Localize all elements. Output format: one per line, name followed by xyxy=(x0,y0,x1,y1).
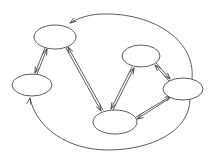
node-upper-right[interactable] xyxy=(122,45,160,67)
edge-n5-to-n2-outer-bottom-arrowhead-icon xyxy=(27,98,31,104)
edge-n3-to-n1-line xyxy=(68,47,103,110)
edge-n5-to-n4 xyxy=(155,65,169,81)
edge-n2-to-n1-line xyxy=(37,49,47,74)
node-top-left[interactable] xyxy=(34,25,76,49)
edge-n5-to-n3 xyxy=(137,98,170,119)
node-left[interactable] xyxy=(12,74,52,96)
edge-n5-to-n4-line xyxy=(155,65,169,81)
edge-n3-to-n4 xyxy=(113,68,134,110)
edge-n3-to-n1-arrowhead-icon xyxy=(68,47,73,53)
node-right[interactable] xyxy=(163,78,203,100)
edge-n3-to-n4-line xyxy=(113,68,134,110)
edge-n4-to-n5-line xyxy=(156,63,170,79)
node-bottom-center[interactable] xyxy=(93,110,137,134)
edge-n4-to-n3-line xyxy=(111,67,132,109)
edge-n3-to-n5 xyxy=(136,96,171,117)
edge-n1-to-n3-line xyxy=(66,48,101,111)
nodes-layer xyxy=(12,25,203,134)
edge-n1-to-n2-line xyxy=(35,48,45,73)
edge-n1-to-n3 xyxy=(66,48,101,111)
edge-n3-to-n1 xyxy=(68,47,103,110)
edge-n1-to-n2 xyxy=(35,48,45,73)
edge-n2-to-n1 xyxy=(37,49,47,74)
directed-graph-figure xyxy=(0,0,216,158)
diagram-canvas xyxy=(0,0,216,158)
edge-n3-to-n5-line xyxy=(136,96,171,117)
edge-n4-to-n5 xyxy=(156,63,170,79)
edge-n5-to-n3-line xyxy=(137,98,170,119)
edge-n4-to-n3 xyxy=(111,67,132,109)
